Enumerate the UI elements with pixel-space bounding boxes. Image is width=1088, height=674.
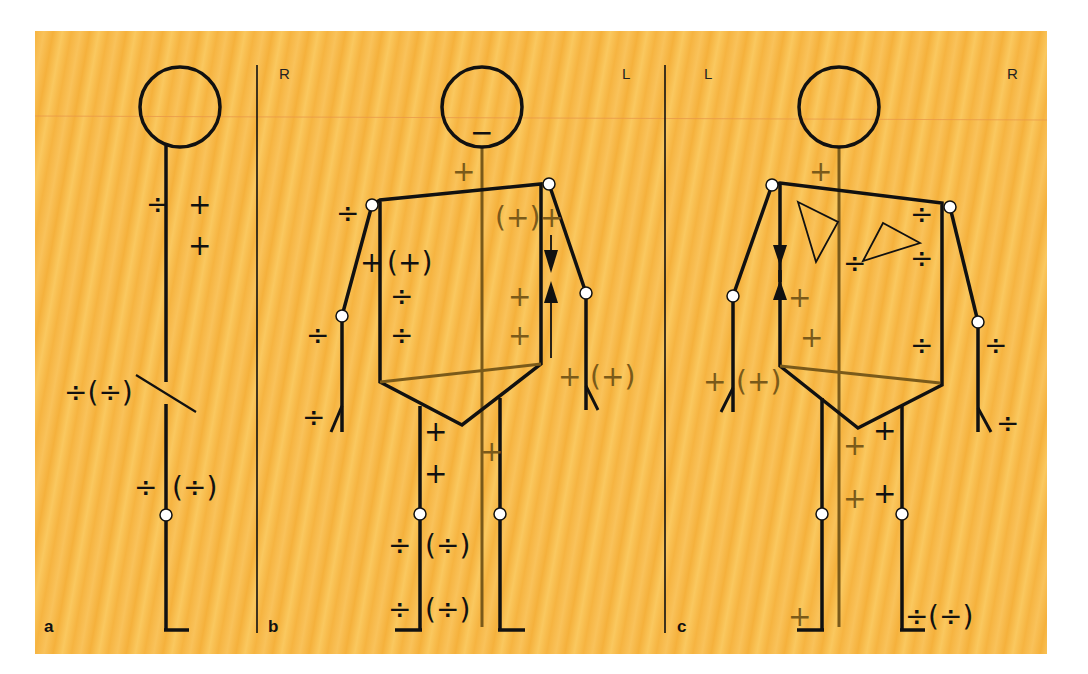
posture-diagram-figure: R L L R a b c ÷++÷(÷)÷(÷) −+÷(+)++(+)÷+÷… — [0, 0, 1088, 674]
panel-b-side-label-right: L — [622, 65, 630, 82]
panel-a-signs: ÷++÷(÷)÷(÷) — [64, 188, 217, 504]
hand-fork-right — [978, 408, 991, 432]
sign-annotation: + — [843, 429, 866, 462]
sign-annotation: (+) — [590, 360, 635, 393]
sign-annotation: + — [508, 319, 531, 352]
sign-annotation: + — [480, 435, 503, 468]
elbow-joint-right — [336, 310, 348, 322]
sign-annotation: ÷ — [984, 329, 1007, 362]
sign-annotation: (÷) — [928, 600, 973, 633]
sign-annotation: (+) — [387, 246, 432, 279]
knee-joint-right — [896, 508, 908, 520]
sign-annotation: + — [452, 155, 475, 188]
sign-annotation: (÷) — [425, 593, 470, 626]
sign-annotation: + — [843, 482, 866, 515]
sign-annotation: ÷ — [390, 280, 413, 313]
sign-annotation: + — [540, 201, 563, 234]
sign-annotation: + — [188, 229, 211, 262]
panel-c-side-label-left: L — [704, 65, 712, 82]
sign-annotation: ÷ — [996, 407, 1019, 440]
shoulder-joint-right — [366, 199, 378, 211]
shoulder-joint-right — [944, 201, 956, 213]
scapula-triangle-left — [798, 202, 838, 262]
sign-annotation: + — [188, 188, 211, 221]
arrow-up-head — [773, 280, 787, 300]
sign-annotation: + — [424, 415, 447, 448]
sign-annotation: ÷ — [388, 529, 411, 562]
sign-annotation: (+) — [736, 365, 781, 398]
panel-c-figure — [721, 67, 991, 630]
sign-annotation: ÷ — [302, 401, 325, 434]
panel-letter-a: a — [44, 617, 54, 636]
sign-annotation: ÷ — [910, 329, 933, 362]
upper-arm-left — [733, 185, 772, 296]
sign-annotation: + — [873, 414, 896, 447]
sign-annotation: + — [424, 457, 447, 490]
panel-letter-c: c — [677, 617, 686, 636]
sign-annotation: ÷ — [306, 319, 329, 352]
sign-annotation: + — [788, 281, 811, 314]
panel-c-side-label-right: R — [1007, 65, 1018, 82]
arrow-down-head — [544, 250, 558, 273]
sign-annotation: ÷ — [390, 319, 413, 352]
sign-annotation: + — [703, 365, 726, 398]
knee-joint-right — [414, 508, 426, 520]
sign-annotation: (÷) — [172, 471, 217, 504]
pelvis-line-brown — [380, 364, 541, 382]
sign-annotation: ÷ — [388, 593, 411, 626]
sign-annotation: + — [508, 280, 531, 313]
sign-annotation: + — [873, 477, 896, 510]
elbow-joint-right — [972, 316, 984, 328]
diagram-canvas: R L L R a b c ÷++÷(÷)÷(÷) −+÷(+)++(+)÷+÷… — [0, 0, 1088, 674]
sign-annotation: + — [788, 600, 811, 633]
sign-annotation: ÷ — [146, 188, 169, 221]
shoulder-joint-left — [766, 179, 778, 191]
elbow-joint-left — [580, 287, 592, 299]
sign-annotation: ÷ — [910, 242, 933, 275]
panel-c-signs: +÷÷÷++÷÷+(+)÷+++++÷(÷) — [703, 155, 1019, 633]
sign-annotation: + — [800, 321, 823, 354]
sign-annotation: ÷ — [905, 600, 928, 633]
panel-a-figure — [136, 67, 220, 630]
sign-annotation: + — [558, 360, 581, 393]
panel-letter-b: b — [268, 617, 278, 636]
elbow-joint-left — [727, 290, 739, 302]
knee-joint-left — [494, 508, 506, 520]
knee-joint — [160, 509, 172, 521]
sign-annotation: + — [809, 155, 832, 188]
sign-annotation: ÷ — [134, 471, 157, 504]
pelvis-line-brown — [780, 366, 940, 383]
sign-annotation: (+) — [495, 201, 540, 234]
sign-annotation: + — [360, 246, 383, 279]
sign-annotation: − — [470, 116, 493, 149]
head-circle — [140, 67, 220, 147]
arrow-down-head — [773, 245, 787, 266]
sign-annotation: ÷ — [910, 198, 933, 231]
knee-joint-left — [816, 508, 828, 520]
horizontal-guide-line — [35, 116, 1047, 120]
panel-b-side-label-left: R — [279, 65, 290, 82]
sign-annotation: ÷ — [336, 197, 359, 230]
sign-annotation: ÷ — [843, 247, 866, 280]
sign-annotation: (÷) — [425, 529, 470, 562]
head-circle — [799, 67, 879, 147]
sign-annotation: ÷(÷) — [64, 376, 133, 409]
upper-arm-right — [950, 207, 978, 322]
shoulder-joint-left — [543, 178, 555, 190]
